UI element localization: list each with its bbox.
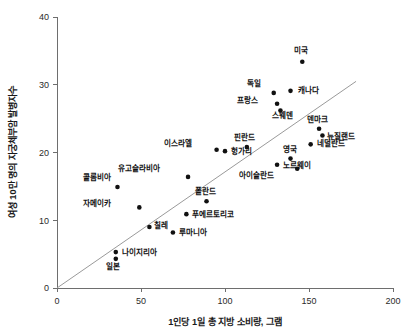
data-point-label: 폴란드 bbox=[195, 186, 216, 196]
data-point[interactable] bbox=[184, 212, 189, 217]
data-point-label: 유고슬라비아 bbox=[118, 163, 160, 173]
data-point-label: 프랑스 bbox=[237, 95, 258, 105]
y-tick-label-10: 10 bbox=[39, 216, 49, 226]
data-point-label: 나이지리아 bbox=[122, 247, 157, 257]
data-point-label: 영국 bbox=[283, 144, 297, 154]
y-axis-title: 여성 10만 명의 자궁체부암 발병자수 bbox=[7, 85, 18, 218]
data-point-label: 네덜란드 bbox=[317, 138, 345, 148]
y-tick-label-20: 20 bbox=[39, 148, 49, 158]
data-point[interactable] bbox=[300, 59, 305, 64]
data-point-label: 루마니아 bbox=[179, 227, 207, 237]
data-point[interactable] bbox=[317, 126, 322, 131]
data-point-label: 헝가리 bbox=[231, 146, 252, 156]
x-tick-label-50: 50 bbox=[136, 296, 146, 306]
x-tick-label-150: 150 bbox=[301, 296, 316, 306]
data-point[interactable] bbox=[214, 147, 219, 152]
data-point[interactable] bbox=[137, 205, 142, 210]
data-point-label: 칠레 bbox=[154, 220, 168, 230]
data-point-label: 노르웨이 bbox=[283, 160, 311, 170]
data-point[interactable] bbox=[171, 230, 176, 235]
data-point[interactable] bbox=[271, 91, 276, 96]
data-point-label: 아이슬란드 bbox=[239, 170, 274, 180]
data-point[interactable] bbox=[288, 89, 293, 94]
scatter-chart: 010203040 050100150200 미국독일캐나다프랑스스웨덴덴마크뉴… bbox=[0, 0, 410, 336]
x-tick-label-100: 100 bbox=[217, 296, 232, 306]
data-point-label: 캐나다 bbox=[298, 85, 319, 95]
data-point-label: 일본 bbox=[106, 261, 120, 271]
data-point-label: 푸에르토리코 bbox=[192, 209, 234, 219]
data-point[interactable] bbox=[114, 250, 119, 255]
data-point[interactable] bbox=[147, 225, 152, 230]
data-point-label: 핀란드 bbox=[234, 132, 255, 142]
regression-line bbox=[57, 81, 356, 288]
data-point[interactable] bbox=[308, 142, 313, 147]
y-tick-label-30: 30 bbox=[39, 80, 49, 90]
data-point-label: 미국 bbox=[294, 45, 308, 55]
data-point-label: 자메이카 bbox=[83, 198, 111, 208]
data-point[interactable] bbox=[275, 162, 280, 167]
trend-line bbox=[57, 81, 356, 288]
data-point-label: 이스라엘 bbox=[164, 138, 192, 148]
data-point[interactable] bbox=[204, 199, 209, 204]
data-point-label: 독일 bbox=[247, 78, 261, 88]
chart-canvas: 010203040 050100150200 미국독일캐나다프랑스스웨덴덴마크뉴… bbox=[0, 0, 410, 336]
data-point[interactable] bbox=[223, 149, 228, 154]
x-axis-ticks: 050100150200 bbox=[54, 288, 400, 306]
y-tick-label-40: 40 bbox=[39, 12, 49, 22]
data-point[interactable] bbox=[115, 185, 120, 190]
y-tick-label-0: 0 bbox=[44, 283, 49, 293]
data-point[interactable] bbox=[320, 133, 325, 138]
x-tick-label-200: 200 bbox=[385, 296, 400, 306]
data-point[interactable] bbox=[186, 175, 191, 180]
y-axis-ticks: 010203040 bbox=[39, 12, 57, 293]
data-point[interactable] bbox=[114, 257, 119, 262]
x-tick-label-0: 0 bbox=[54, 296, 59, 306]
data-point-labels-group: 미국독일캐나다프랑스스웨덴덴마크뉴질랜드네덜란드영국노르웨이아이슬란드핀란드헝가… bbox=[83, 45, 355, 271]
data-point[interactable] bbox=[275, 101, 280, 106]
data-point-label: 스웨덴 bbox=[272, 110, 293, 120]
data-point-label: 덴마크 bbox=[307, 114, 328, 124]
x-axis-title: 1인당 1일 총 지방 소비량, 그램 bbox=[168, 316, 282, 327]
data-point-label: 콜롬비아 bbox=[83, 172, 111, 182]
